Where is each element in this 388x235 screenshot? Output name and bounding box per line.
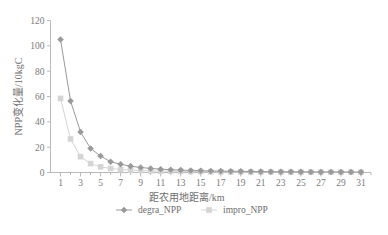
chart-container: 020406080100120 135791113151719212325272… bbox=[0, 0, 388, 235]
chart-legend: degra_NPPimpro_NPP bbox=[116, 205, 268, 215]
legend-marker-square bbox=[206, 207, 212, 213]
data-point-impro_NPP bbox=[68, 136, 74, 142]
data-point-degra_NPP bbox=[77, 129, 84, 136]
y-tick-label: 60 bbox=[35, 92, 45, 102]
data-point-impro_NPP bbox=[108, 166, 114, 172]
y-tick-label: 20 bbox=[35, 143, 45, 153]
y-tick-label: 40 bbox=[35, 117, 45, 127]
series-line-impro_NPP bbox=[61, 98, 361, 172]
series-line-degra_NPP bbox=[61, 40, 361, 173]
y-tick-label: 100 bbox=[30, 41, 45, 51]
x-tick-label: 27 bbox=[316, 178, 326, 188]
data-point-degra_NPP bbox=[107, 158, 114, 165]
data-point-impro_NPP bbox=[58, 96, 64, 102]
x-tick-label: 15 bbox=[196, 178, 206, 188]
x-tick-label: 17 bbox=[216, 178, 226, 188]
x-tick-label: 25 bbox=[296, 178, 306, 188]
legend-marker-diamond bbox=[121, 207, 127, 213]
marker-square bbox=[108, 166, 114, 172]
marker-square bbox=[88, 161, 94, 167]
marker-diamond bbox=[77, 129, 84, 136]
x-tick-label: 31 bbox=[356, 178, 366, 188]
data-point-impro_NPP bbox=[98, 164, 104, 170]
x-tick-label: 23 bbox=[276, 178, 286, 188]
y-tick-label: 120 bbox=[30, 16, 45, 26]
data-point-degra_NPP bbox=[67, 98, 74, 105]
legend-item-impro_NPP[interactable]: impro_NPP bbox=[201, 205, 268, 215]
x-tick-label: 9 bbox=[138, 178, 143, 188]
data-point-degra_NPP bbox=[117, 161, 124, 168]
x-tick-label: 19 bbox=[236, 178, 246, 188]
x-tick-label: 1 bbox=[58, 178, 63, 188]
plot-series-group bbox=[57, 36, 364, 175]
data-point-impro_NPP bbox=[78, 154, 84, 160]
marker-square bbox=[58, 96, 64, 102]
x-tick-label: 5 bbox=[98, 178, 103, 188]
marker-diamond bbox=[107, 158, 114, 165]
marker-square bbox=[98, 164, 104, 170]
y-tick-label: 0 bbox=[40, 168, 45, 178]
x-tick-label: 3 bbox=[78, 178, 83, 188]
y-axis: 020406080100120 bbox=[30, 16, 50, 178]
x-tick-label: 21 bbox=[256, 178, 266, 188]
y-axis-title: NPP变化量/10kgC bbox=[12, 57, 24, 135]
data-point-impro_NPP bbox=[88, 161, 94, 167]
data-point-degra_NPP bbox=[57, 36, 64, 43]
x-tick-label: 11 bbox=[156, 178, 165, 188]
marker-square bbox=[78, 154, 84, 160]
legend-label: impro_NPP bbox=[223, 205, 268, 215]
marker-diamond bbox=[57, 36, 64, 43]
marker-diamond bbox=[117, 161, 124, 168]
npp-distance-line-chart: 020406080100120 135791113151719212325272… bbox=[0, 0, 388, 235]
x-tick-label: 7 bbox=[118, 178, 123, 188]
legend-item-degra_NPP[interactable]: degra_NPP bbox=[116, 205, 181, 215]
x-tick-label: 13 bbox=[176, 178, 186, 188]
marker-square bbox=[68, 136, 74, 142]
marker-diamond bbox=[67, 98, 74, 105]
x-axis-title: 距农用地距离/km bbox=[149, 191, 225, 203]
y-tick-label: 80 bbox=[35, 67, 45, 77]
x-tick-label: 29 bbox=[336, 178, 346, 188]
legend-label: degra_NPP bbox=[138, 205, 181, 215]
